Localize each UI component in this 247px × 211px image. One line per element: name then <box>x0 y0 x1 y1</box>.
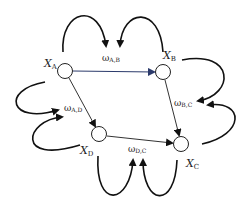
node-b <box>156 65 171 80</box>
arc-ab-right <box>120 17 163 52</box>
arc-bc-bottom <box>202 105 235 144</box>
node-label-d: XD <box>80 145 93 158</box>
arc-ad-bottom <box>33 117 80 150</box>
arc-dc-right <box>143 160 177 196</box>
node-d <box>92 127 107 142</box>
weight-label-ad: ωA,D <box>64 104 82 113</box>
edge-a-d <box>69 78 95 126</box>
arc-ab-left <box>63 16 106 52</box>
arc-dc-left <box>98 156 133 195</box>
node-label-a: XA <box>44 58 57 71</box>
weight-label-ab: ωA,B <box>102 54 120 63</box>
node-label-b: XB <box>163 50 176 63</box>
arc-bc-top <box>182 59 224 101</box>
node-c <box>174 137 189 152</box>
node-label-c: XC <box>186 158 199 171</box>
network-diagram <box>0 0 247 211</box>
weight-label-dc: ωD,C <box>128 145 146 154</box>
weight-label-bc: ωB,C <box>174 99 192 108</box>
node-a <box>58 64 73 79</box>
edge-d-c <box>107 136 172 143</box>
arc-ad-top <box>16 82 58 114</box>
edge-a-b <box>73 71 154 72</box>
